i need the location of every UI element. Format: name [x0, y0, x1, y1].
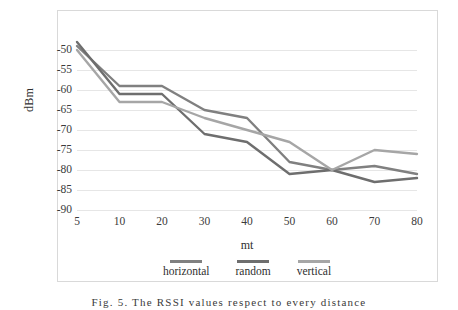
x-tick-label: 60	[312, 216, 352, 228]
y-tick-label: -60	[42, 84, 72, 96]
figure-caption: Fig. 5. The RSSI values respect to every…	[0, 296, 458, 308]
legend-item-horizontal: horizontal	[163, 260, 210, 278]
x-tick-label: 70	[355, 216, 395, 228]
legend-item-vertical: vertical	[297, 260, 331, 278]
y-tick-label: -85	[42, 184, 72, 196]
legend-swatch-vertical	[298, 260, 330, 263]
y-axis-ticks: -50-55-60-65-70-75-80-85-90	[36, 30, 72, 210]
legend-swatch-horizontal	[170, 260, 202, 263]
y-tick-label: -70	[42, 124, 72, 136]
x-tick-label: 5	[57, 216, 97, 228]
legend-label-random: random	[236, 266, 271, 278]
x-axis-title: mt	[77, 238, 417, 253]
series-lines	[77, 30, 417, 210]
x-tick-label: 30	[185, 216, 225, 228]
legend-label-vertical: vertical	[297, 266, 331, 278]
y-axis-title: dBm	[22, 88, 37, 112]
legend-label-horizontal: horizontal	[163, 266, 210, 278]
chart-legend: horizontalrandomvertical	[77, 258, 417, 280]
x-axis-ticks: 51020304050607080	[77, 216, 417, 234]
x-tick-label: 40	[227, 216, 267, 228]
legend-swatch-random	[237, 260, 269, 263]
y-tick-label: -50	[42, 44, 72, 56]
gridline	[77, 210, 417, 211]
x-tick-label: 20	[142, 216, 182, 228]
plot-area	[77, 30, 417, 210]
legend-item-random: random	[236, 260, 271, 278]
y-tick-label: -90	[42, 204, 72, 216]
series-line-vertical	[77, 50, 417, 170]
y-tick-label: -80	[42, 164, 72, 176]
series-line-random	[77, 42, 417, 182]
y-tick-label: -65	[42, 104, 72, 116]
x-tick-label: 80	[397, 216, 437, 228]
x-tick-label: 50	[270, 216, 310, 228]
x-tick-label: 10	[100, 216, 140, 228]
y-tick-label: -55	[42, 64, 72, 76]
figure-container: dBm -50-55-60-65-70-75-80-85-90 51020304…	[0, 0, 458, 310]
y-tick-label: -75	[42, 144, 72, 156]
